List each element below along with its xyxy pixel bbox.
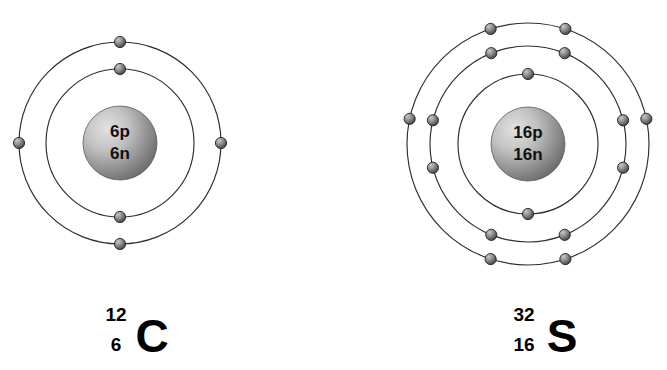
isotope-labels-layer: 126C3216S xyxy=(105,304,577,362)
atom-carbon-outer-shell-electron-4 xyxy=(13,137,24,148)
isotope-sulfur-atomic-number: 16 xyxy=(513,334,534,355)
isotope-carbon-mass-number: 12 xyxy=(105,304,126,325)
atom-sulfur-outer-shell-electron-2 xyxy=(485,23,496,34)
atom-sulfur-inner-shell-electron-1 xyxy=(522,68,533,79)
atom-sulfur-outer-shell-electron-5 xyxy=(641,113,652,124)
isotope-label-carbon: 126C xyxy=(105,304,168,362)
isotope-sulfur-symbol: S xyxy=(547,310,578,362)
atomic-diagram-canvas: 6p6n16p16n 126C3216S xyxy=(0,0,667,370)
atom-sulfur-middle-shell-electron-8 xyxy=(427,162,438,173)
atom-sulfur-outer-shell-electron-1 xyxy=(560,23,571,34)
atom-sulfur-middle-shell-electron-5 xyxy=(617,115,628,126)
atom-sulfur-middle-shell-electron-4 xyxy=(559,229,570,240)
atom-carbon-outer-shell-electron-1 xyxy=(114,36,125,47)
atom-sulfur-inner-shell-electron-2 xyxy=(522,208,533,219)
isotope-sulfur-mass-number: 32 xyxy=(513,304,534,325)
atom-sulfur-middle-shell-electron-7 xyxy=(427,115,438,126)
atom-carbon-neutrons-label: 6n xyxy=(110,144,130,163)
atom-sulfur-middle-shell-electron-3 xyxy=(486,229,497,240)
atom-carbon-nucleus xyxy=(83,106,157,180)
atom-carbon-outer-shell-electron-2 xyxy=(114,238,125,249)
atom-sulfur-middle-shell-electron-6 xyxy=(617,162,628,173)
atom-carbon: 6p6n xyxy=(13,36,226,249)
atom-sulfur-middle-shell-electron-2 xyxy=(486,48,497,59)
atom-carbon-outer-shell-electron-3 xyxy=(215,137,226,148)
atom-carbon-protons-label: 6p xyxy=(110,122,130,141)
atom-diagram-svg: 6p6n16p16n 126C3216S xyxy=(0,0,667,370)
isotope-carbon-symbol: C xyxy=(135,310,168,362)
atom-sulfur-outer-shell-electron-4 xyxy=(560,253,571,264)
atom-sulfur-outer-shell-electron-3 xyxy=(485,253,496,264)
atom-sulfur-outer-shell-electron-6 xyxy=(404,113,415,124)
atom-sulfur: 16p16n xyxy=(404,23,652,265)
atom-sulfur-protons-label: 16p xyxy=(513,123,542,142)
atom-carbon-inner-shell-electron-1 xyxy=(114,63,125,74)
atom-carbon-inner-shell-electron-2 xyxy=(114,211,125,222)
atoms-layer: 6p6n16p16n xyxy=(13,23,652,265)
isotope-carbon-atomic-number: 6 xyxy=(111,334,122,355)
atom-sulfur-middle-shell-electron-1 xyxy=(559,48,570,59)
atom-sulfur-nucleus xyxy=(491,107,565,181)
isotope-label-sulfur: 3216S xyxy=(513,304,577,362)
atom-sulfur-neutrons-label: 16n xyxy=(513,145,542,164)
